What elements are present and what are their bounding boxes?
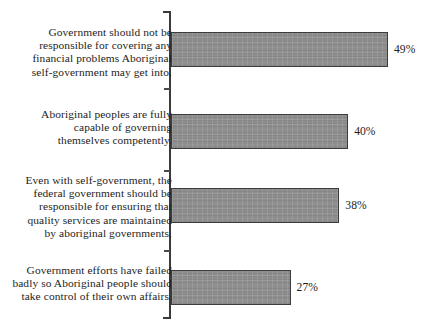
bar-value-label: 40% xyxy=(354,125,375,138)
y-axis-tick-1 xyxy=(164,88,170,90)
bar-segment[interactable] xyxy=(171,114,348,149)
bar-segment[interactable] xyxy=(171,32,388,67)
category-label: Government efforts have failed badly so … xyxy=(6,264,172,304)
bar-chart: Government should not be responsible for… xyxy=(0,0,424,329)
category-label: Aboriginal peoples are fully capable of … xyxy=(6,108,172,148)
bar-segment[interactable] xyxy=(171,270,291,305)
y-axis-tick-3 xyxy=(164,250,170,252)
bar-container[interactable] xyxy=(171,32,388,67)
bar-value-label: 49% xyxy=(394,43,415,56)
category-label: Government should not be responsible for… xyxy=(6,26,172,79)
y-axis-cap-bottom xyxy=(163,317,171,319)
y-axis-cap-top xyxy=(163,11,171,13)
y-axis-tick-2 xyxy=(164,170,170,172)
bar-container[interactable] xyxy=(171,114,348,149)
category-label: Even with self-government, the federal g… xyxy=(6,174,172,240)
bar-value-label: 38% xyxy=(345,199,366,212)
bar-container[interactable] xyxy=(171,188,339,223)
bar-segment[interactable] xyxy=(171,188,339,223)
bar-value-label: 27% xyxy=(297,281,318,294)
bar-container[interactable] xyxy=(171,270,291,305)
